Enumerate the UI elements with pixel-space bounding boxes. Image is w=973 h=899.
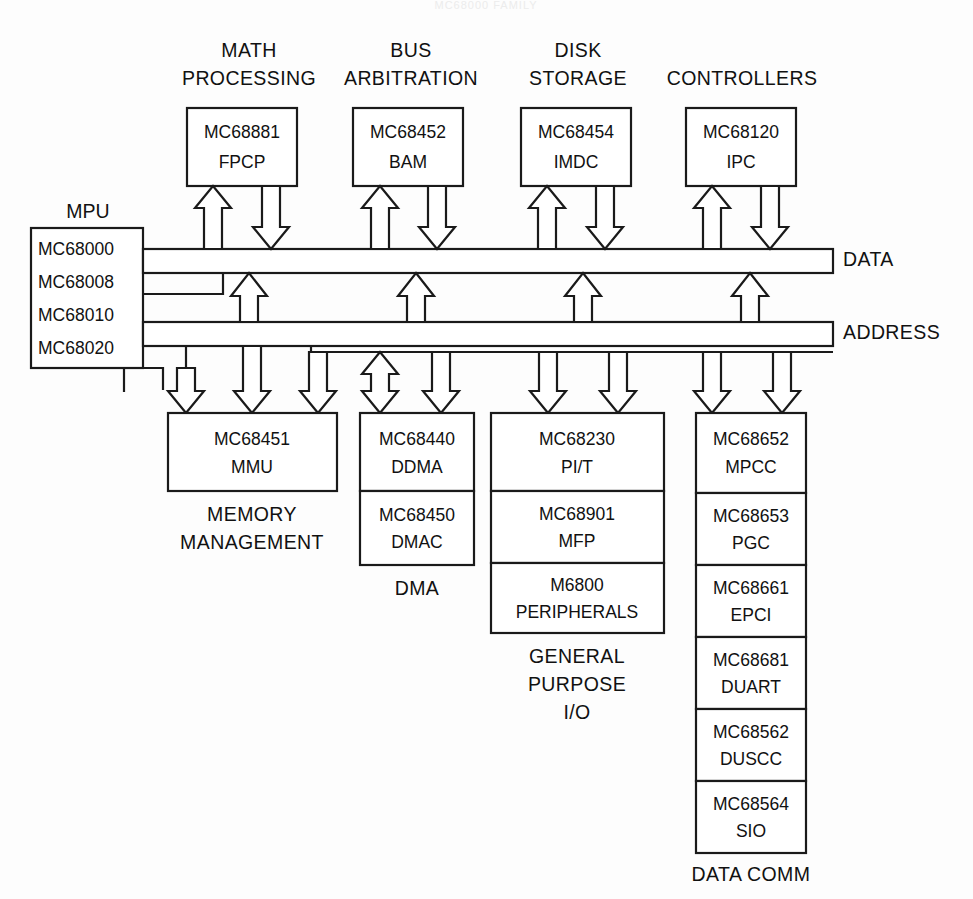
arrow-down-gpio-b [600,352,636,413]
top-box-bus-func: BAM [389,152,427,172]
mpu-box[interactable]: MC68000 MC68008 MC68010 MC68020 [31,228,143,368]
heading-math-line1: MATH [221,39,276,61]
bottom-box-duscc-rect [696,709,806,781]
bottom-box-mfp-func: MFP [559,531,596,551]
arrow-down-dma-b [423,352,459,413]
address-bus-bar [143,322,833,346]
page-title: MC68000 FAMILY [434,0,537,11]
heading-bus-line2: ARBITRATION [344,67,478,89]
mpu-part-0: MC68000 [38,239,114,259]
heading-disk-line2: STORAGE [529,67,627,89]
mpu-label: MPU [66,200,109,222]
arrow-down-datacomm-a [694,352,730,413]
heading-disk-line1: DISK [554,39,601,61]
bottom-box-mpcc[interactable]: MC68652 MPCC [696,413,806,493]
bottom-box-sio-func: SIO [736,821,766,841]
bottom-box-mmu-part: MC68451 [214,429,290,449]
arrow-down-mmu-c [300,352,336,413]
caption-memory-line2: MANAGEMENT [180,531,324,553]
bottom-box-pit[interactable]: MC68230 PI/T [491,413,664,491]
top-box-bus-part: MC68452 [370,122,446,142]
arrow-down-bus-arbitration [419,186,455,249]
bottom-box-sio[interactable]: MC68564 SIO [696,781,806,853]
bottom-box-pgc-rect [696,493,806,565]
bottom-box-peripherals[interactable]: M6800 PERIPHERALS [491,563,664,633]
arrow-up-address-disk-storage [565,273,601,322]
bottom-box-mpcc-part: MC68652 [713,429,789,449]
arrow-up-address-math [231,273,267,322]
data-bus: DATA [143,248,894,273]
bottom-box-peripherals-part: M6800 [550,575,604,595]
diagram-root: MC68000 FAMILY MATH PROCESSING BUS ARBIT… [0,0,973,899]
heading-controllers-line2: CONTROLLERS [667,67,818,89]
top-box-bus-arbitration[interactable]: MC68452 BAM [353,108,463,186]
top-box-disk-rect [521,108,631,186]
bottom-box-dmac-part: MC68450 [379,505,455,525]
top-box-math-part: MC68881 [204,122,280,142]
bottom-box-mpcc-func: MPCC [725,457,777,477]
arrow-up-math [195,186,231,249]
bottom-box-pgc[interactable]: MC68653 PGC [696,493,806,565]
bottom-box-pit-part: MC68230 [539,429,615,449]
mpu-part-3: MC68020 [38,338,114,358]
bottom-box-dmac[interactable]: MC68450 DMAC [360,491,474,565]
bottom-box-sio-part: MC68564 [713,794,789,814]
arrow-down-math [253,186,289,249]
bottom-box-sio-rect [696,781,806,853]
top-box-bus-rect [353,108,463,186]
bottom-box-duart-func: DUART [721,677,781,697]
bottom-box-mfp[interactable]: MC68901 MFP [491,491,664,563]
bottom-box-epci-part: MC68661 [713,578,789,598]
bottom-box-dmac-func: DMAC [391,532,443,552]
caption-memory-line1: MEMORY [207,503,297,525]
top-box-math[interactable]: MC68881 FPCP [187,108,297,186]
bottom-box-peripherals-rect [491,563,664,633]
top-box-controllers[interactable]: MC68120 IPC [686,108,796,186]
bottom-box-pgc-func: PGC [732,533,770,553]
arrow-down-gpio-a [530,352,566,413]
top-column-headings: MATH PROCESSING BUS ARBITRATION DISK STO… [182,39,817,89]
caption-gpio-line2: PURPOSE [528,673,626,695]
bottom-box-duart[interactable]: MC68681 DUART [696,637,806,709]
block-diagram: MC68000 FAMILY MATH PROCESSING BUS ARBIT… [0,0,973,899]
data-bus-label: DATA [843,248,894,270]
arrow-down-datacomm-b [764,352,800,413]
mpu-part-1: MC68008 [38,272,114,292]
control-line-mc68010 [143,273,223,294]
bottom-box-ddma-part: MC68440 [379,429,455,449]
bottom-box-duart-part: MC68681 [713,650,789,670]
top-box-disk-part: MC68454 [538,122,614,142]
bottom-box-mmu-rect [168,413,337,491]
bottom-box-pit-func: PI/T [561,457,593,477]
mpu-part-2: MC68010 [38,305,114,325]
bottom-box-duscc[interactable]: MC68562 DUSCC [696,709,806,781]
top-box-math-func: FPCP [219,152,266,172]
top-box-disk-storage[interactable]: MC68454 IMDC [521,108,631,186]
heading-bus-line1: BUS [390,39,431,61]
bottom-box-peripherals-func: PERIPHERALS [516,602,639,622]
top-box-math-rect [187,108,297,186]
address-bus-label: ADDRESS [843,321,940,343]
caption-gpio-line3: I/O [563,701,590,723]
bottom-box-pgc-part: MC68653 [713,506,789,526]
arrow-up-bus-arbitration [362,186,398,249]
mpu-lower-stub [143,368,163,390]
bottom-box-epci-rect [696,565,806,637]
caption-gpio-line1: GENERAL [529,645,625,667]
arrow-bidir-dma [362,352,398,413]
data-bus-bar [143,249,833,273]
arrow-down-disk-storage [587,186,623,249]
bottom-box-epci[interactable]: MC68661 EPCI [696,565,806,637]
bottom-box-mfp-rect [491,491,664,563]
caption-datacomm: DATA COMM [692,863,811,885]
top-box-controllers-rect [686,108,796,186]
bottom-box-ddma-rect [360,413,474,491]
bottom-box-pit-rect [491,413,664,491]
heading-math-line2: PROCESSING [182,67,316,89]
top-box-controllers-part: MC68120 [703,122,779,142]
bottom-box-ddma[interactable]: MC68440 DDMA [360,413,474,491]
top-box-controllers-func: IPC [726,152,755,172]
bottom-box-mfp-part: MC68901 [539,504,615,524]
bottom-box-mmu[interactable]: MC68451 MMU [168,413,337,491]
arrow-up-address-bus-arbitration [398,273,434,322]
